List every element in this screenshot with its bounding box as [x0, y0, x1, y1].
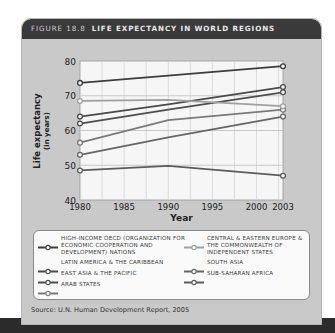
legend-label: CENTRAL & EASTERN EUROPE & THE COMMONWEA…	[207, 235, 306, 256]
legend-label: LATIN AMERICA & THE CARIBBEAN	[61, 259, 163, 266]
x-tick-label: 1995	[202, 202, 224, 212]
legend-label: EAST ASIA & THE PACIFIC	[61, 270, 137, 277]
legend-column-left: HIGH-INCOME OECD (ORGANIZATION FOR ECONO…	[38, 235, 188, 292]
line-marker-icon	[184, 260, 204, 267]
x-tick-label: 2000	[246, 202, 268, 212]
data-point-marker	[281, 173, 286, 178]
y-tick-label: 80	[65, 57, 77, 67]
data-point-marker	[281, 85, 286, 90]
line-marker-icon	[38, 271, 58, 278]
x-tick-label: 2003	[272, 202, 294, 212]
y-axis-label: Life expectancy (in years)	[32, 93, 51, 169]
x-tick-label: 1985	[113, 202, 135, 212]
legend-item: EAST ASIA & THE PACIFIC	[38, 270, 188, 278]
legend-item: HIGH-INCOME OECD (ORGANIZATION FOR ECONO…	[38, 235, 188, 256]
svg-text:Life expectancy: Life expectancy	[32, 93, 42, 169]
x-tick-label: 1980	[69, 202, 91, 212]
line-marker-icon	[184, 271, 204, 278]
legend-item: LATIN AMERICA & THE CARIBBEAN	[38, 259, 188, 267]
source-note: Source: U.N. Human Development Report, 2…	[31, 306, 189, 314]
data-point-marker	[281, 104, 286, 109]
line-chart: 4050607080 198019851990199520002003 Year…	[22, 19, 321, 229]
legend-label: SUB-SAHARAN AFRICA	[207, 270, 273, 277]
data-point-marker	[281, 90, 286, 95]
x-tick-label: 1990	[157, 202, 179, 212]
data-point-marker	[78, 80, 83, 85]
y-tick-label: 60	[65, 126, 77, 136]
legend-item: CENTRAL & EASTERN EUROPE & THE COMMONWEA…	[184, 235, 306, 256]
legend-item: ARAB STATES	[38, 281, 188, 289]
y-tick-label: 50	[65, 161, 77, 171]
data-point-marker	[78, 99, 83, 104]
data-point-marker	[78, 121, 83, 126]
line-marker-icon	[38, 282, 58, 289]
line-marker-icon	[38, 236, 58, 243]
line-marker-icon	[184, 236, 204, 243]
legend-item: SOUTH ASIA	[184, 259, 306, 267]
x-axis-label: Year	[169, 213, 193, 223]
legend-label: HIGH-INCOME OECD (ORGANIZATION FOR ECONO…	[61, 235, 188, 256]
data-point-marker	[78, 140, 83, 145]
data-point-marker	[78, 152, 83, 157]
data-point-marker	[78, 114, 83, 119]
line-marker-icon	[38, 260, 58, 267]
chart-legend: HIGH-INCOME OECD (ORGANIZATION FOR ECONO…	[33, 230, 310, 300]
x-axis-ticks: 198019851990199520002003	[69, 202, 294, 212]
legend-item: SUB-SAHARAN AFRICA	[184, 270, 306, 278]
legend-label: SOUTH ASIA	[207, 259, 243, 266]
svg-text:(in years): (in years)	[43, 112, 51, 150]
data-point-marker	[281, 64, 286, 69]
legend-label: ARAB STATES	[61, 281, 101, 288]
legend-column-right: CENTRAL & EASTERN EUROPE & THE COMMONWEA…	[184, 235, 306, 281]
data-point-marker	[281, 114, 286, 119]
y-tick-label: 70	[65, 91, 77, 101]
y-axis-ticks: 4050607080	[65, 57, 77, 206]
figure-card: FIGURE 18.8LIFE EXPECTANCY IN WORLD REGI…	[21, 18, 322, 325]
data-point-marker	[78, 168, 83, 173]
